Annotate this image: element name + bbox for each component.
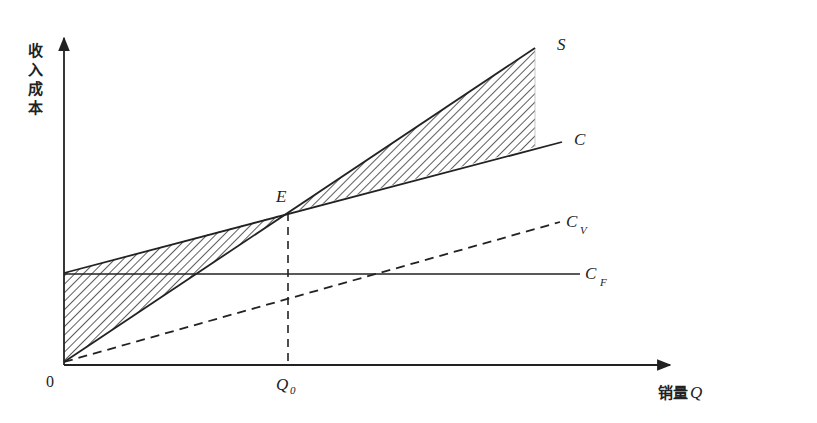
- x-axis-label: 销量: [658, 384, 688, 402]
- breakeven-diagram: 收 入 成 本 销量 Q 0 E Q 0 S C C V C F: [0, 0, 817, 423]
- total-cost-line: [64, 142, 562, 273]
- revenue-line-label: S: [557, 35, 566, 54]
- origin-label: 0: [46, 373, 54, 390]
- variable-cost-line-sub: V: [580, 224, 588, 236]
- breakeven-quantity-label: Q: [276, 375, 288, 394]
- revenue-line: [64, 48, 535, 362]
- fixed-cost-line-label: C: [585, 264, 597, 283]
- variable-cost-line-label: C: [566, 212, 578, 231]
- y-axis-label-char-2: 入: [28, 61, 43, 79]
- y-axis-label-char-1: 收: [28, 42, 43, 60]
- x-axis-symbol: Q: [690, 383, 702, 402]
- breakeven-point-label: E: [275, 187, 287, 206]
- total-cost-line-label: C: [574, 130, 586, 149]
- y-axis-label-char-4: 本: [28, 99, 43, 117]
- y-axis-label-char-3: 成: [28, 80, 43, 98]
- breakeven-quantity-sub: 0: [290, 384, 296, 396]
- fixed-cost-line-sub: F: [599, 276, 607, 288]
